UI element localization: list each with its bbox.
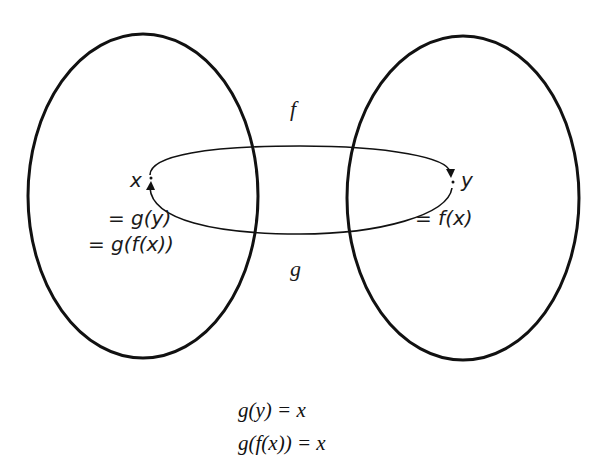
x-equals-g-of-f-of-x: = g(f(x)) (88, 232, 174, 256)
f-arrow-arc (150, 146, 450, 175)
equation-1: g(y) = x (238, 398, 306, 423)
y-equals-f-of-x: = f(x) (415, 206, 473, 230)
codomain-set-ellipse (347, 36, 579, 360)
f-arrowhead-icon (446, 169, 455, 178)
equation-2: g(f(x)) = x (238, 431, 326, 456)
g-arrow-arc (150, 188, 452, 234)
point-y (452, 181, 455, 184)
y-label: y (461, 168, 473, 192)
g-label: g (290, 256, 301, 282)
g-arrowhead-icon (146, 181, 155, 190)
point-x (150, 177, 153, 180)
x-label: x (130, 168, 142, 192)
x-equals-g-of-y: = g(y) (108, 206, 171, 230)
f-label: f (290, 96, 296, 122)
domain-set-ellipse (28, 34, 258, 358)
